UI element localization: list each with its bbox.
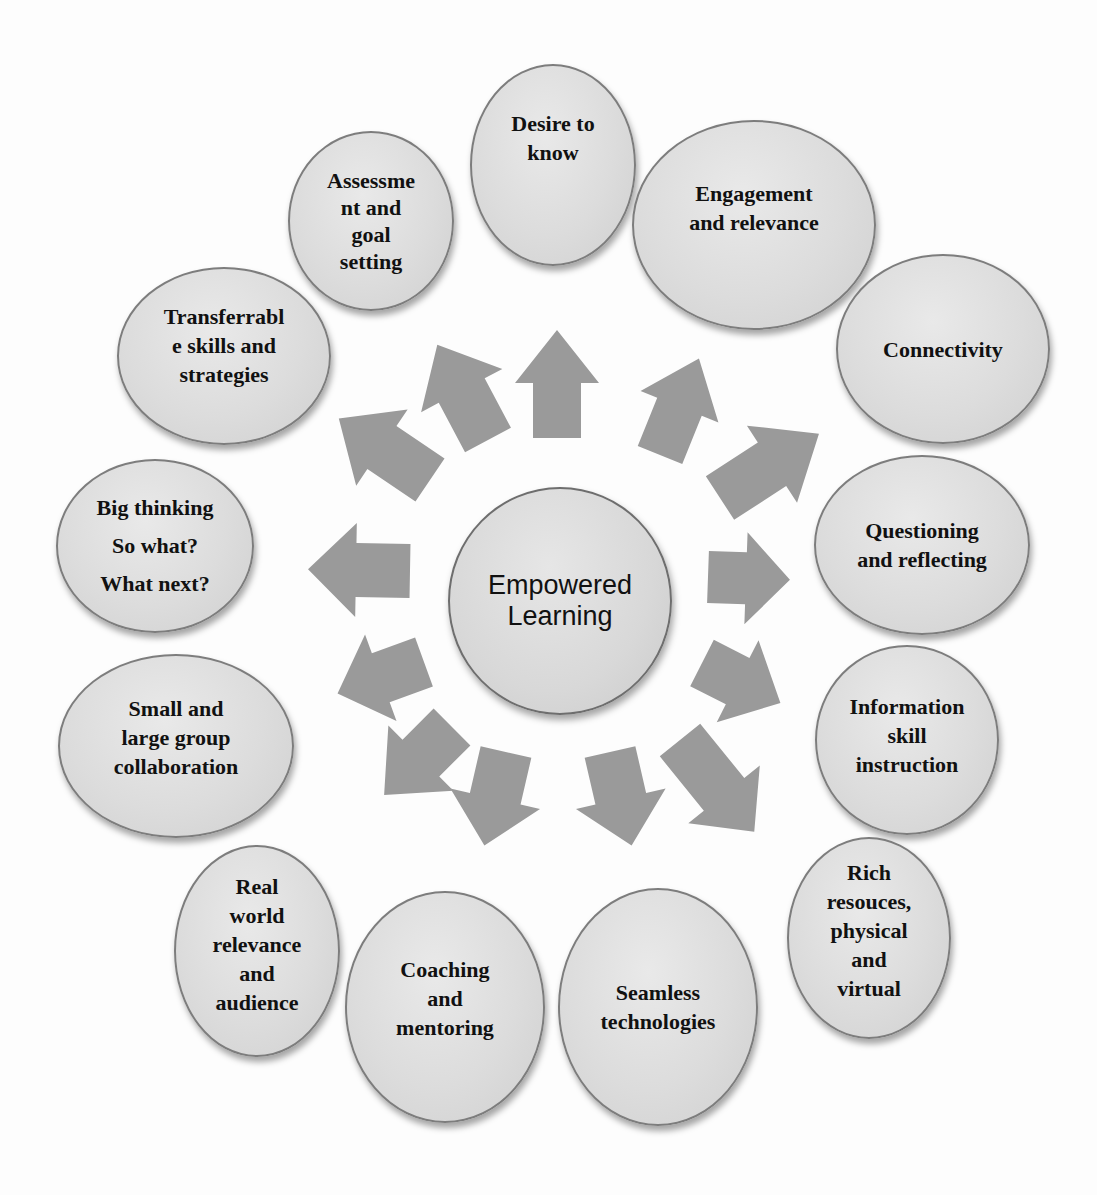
node-label: Desire to know bbox=[505, 109, 600, 167]
node-label: Connectivity bbox=[877, 335, 1009, 364]
center-hub-label: Empowered Learning bbox=[488, 570, 632, 632]
arrow-up-right-icon bbox=[621, 343, 738, 471]
node-questioning-and-reflecting: Questioning and reflecting bbox=[814, 455, 1030, 635]
arrow-down-right-icon bbox=[644, 711, 790, 861]
node-information-skill-instruction: Information skill instruction bbox=[815, 645, 999, 835]
diagram-canvas: Empowered Learning Desire to know Engage… bbox=[0, 0, 1097, 1195]
node-label: Assessme nt and goal setting bbox=[321, 167, 421, 275]
center-hub-empowered-learning: Empowered Learning bbox=[448, 487, 672, 715]
node-label: Engagement and relevance bbox=[683, 179, 825, 237]
arrow-left-down-icon bbox=[322, 619, 440, 737]
node-transferrable-skills: Transferrabl e skills and strategies bbox=[117, 267, 331, 445]
arrow-left-icon bbox=[307, 522, 411, 618]
arrow-down-icon bbox=[565, 742, 676, 856]
node-desire-to-know: Desire to know bbox=[470, 64, 636, 266]
node-assessment-and-goal-setting: Assessme nt and goal setting bbox=[288, 131, 454, 311]
node-label: Seamless technologies bbox=[595, 978, 722, 1036]
node-big-thinking: Big thinking So what? What next? bbox=[56, 459, 254, 633]
node-coaching-and-mentoring: Coaching and mentoring bbox=[345, 891, 545, 1123]
node-small-and-large-group-collaboration: Small and large group collaboration bbox=[58, 654, 294, 838]
node-real-world-relevance: Real world relevance and audience bbox=[174, 845, 340, 1057]
node-seamless-technologies: Seamless technologies bbox=[558, 888, 758, 1126]
node-connectivity: Connectivity bbox=[836, 254, 1050, 444]
node-label: Information skill instruction bbox=[844, 692, 971, 779]
node-rich-resources: Rich resouces, physical and virtual bbox=[787, 837, 951, 1039]
arrow-up-icon bbox=[515, 330, 599, 438]
node-label: Big thinking So what? What next? bbox=[91, 489, 220, 603]
arrow-right-icon bbox=[706, 531, 791, 626]
node-label: Transferrabl e skills and strategies bbox=[158, 302, 291, 389]
node-label: Real world relevance and audience bbox=[207, 872, 308, 1017]
node-label: Small and large group collaboration bbox=[108, 694, 245, 781]
node-label: Coaching and mentoring bbox=[390, 955, 500, 1042]
node-label: Questioning and reflecting bbox=[851, 516, 993, 574]
node-label: Rich resouces, physical and virtual bbox=[821, 858, 918, 1003]
node-engagement-and-relevance: Engagement and relevance bbox=[632, 120, 876, 330]
